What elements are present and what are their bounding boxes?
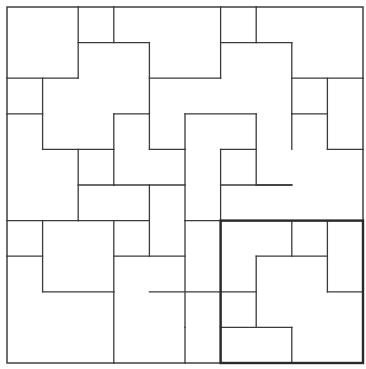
- tiling-canvas: [0, 0, 366, 369]
- tile-edges: [7, 7, 363, 363]
- tiling-figure: [0, 0, 366, 369]
